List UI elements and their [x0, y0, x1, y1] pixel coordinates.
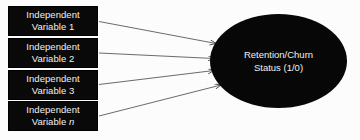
arrow-variable-2: [99, 53, 214, 59]
node-independent-variable-1[interactable]: Independent Variable 1: [8, 6, 98, 36]
node-label-line2: Variable n: [32, 116, 75, 128]
node-independent-variable-2[interactable]: Independent Variable 2: [8, 38, 98, 68]
node-label-index-n: n: [69, 116, 74, 127]
arrow-variable-1: [99, 22, 216, 44]
node-label-line1: Independent: [26, 73, 79, 85]
node-label-line1: Independent: [26, 9, 79, 21]
outcome-label-line1: Retention/Churn: [244, 48, 313, 61]
node-label-line2: Variable 2: [32, 53, 75, 65]
node-label-line1: Independent: [26, 104, 79, 116]
diagram-canvas: Independent Variable 1 Independent Varia…: [0, 0, 360, 140]
outcome-label-line2: Status (1/0): [254, 61, 303, 74]
arrow-variable-3: [99, 71, 214, 85]
node-label-prefix: Variable: [32, 116, 69, 127]
node-retention-churn-status[interactable]: Retention/Churn Status (1/0): [210, 14, 347, 108]
node-independent-variable-n[interactable]: Independent Variable n: [8, 101, 98, 131]
arrow-variable-n: [99, 85, 221, 116]
node-label-line2: Variable 1: [32, 21, 75, 33]
node-label-line1: Independent: [26, 41, 79, 53]
node-label-line2: Variable 3: [32, 85, 75, 97]
node-independent-variable-3[interactable]: Independent Variable 3: [8, 70, 98, 100]
